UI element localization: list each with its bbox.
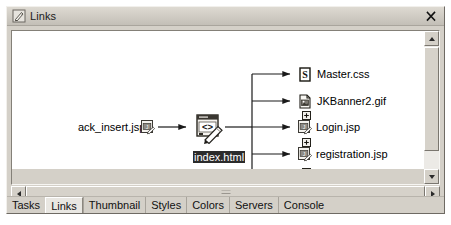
tab-label: Styles — [151, 199, 181, 211]
title-bar: Links — [7, 7, 444, 26]
tab-links[interactable]: Links — [45, 197, 83, 213]
bottom-tab-strip: Tasks Links Thumbnail Styles Colors Serv… — [7, 196, 444, 213]
links-pencil-icon — [12, 9, 26, 23]
tab-colors[interactable]: Colors — [186, 197, 229, 213]
tab-servers[interactable]: Servers — [229, 197, 278, 213]
graph-node-label-target-0[interactable]: Master.css — [317, 68, 370, 80]
svg-text:J: J — [146, 124, 149, 130]
svg-text:J: J — [303, 151, 306, 157]
scroll-down-arrow-glyph — [429, 175, 435, 179]
svg-text:S: S — [302, 69, 308, 80]
tab-thumbnail[interactable]: Thumbnail — [83, 197, 145, 213]
vertical-scrollbar[interactable] — [424, 31, 439, 184]
scroll-up-arrow[interactable] — [424, 31, 439, 46]
links-graph-canvas[interactable]: ack_insert.jsp J — [12, 31, 424, 169]
scroll-down-arrow[interactable] — [424, 169, 439, 184]
svg-text:<>: <> — [202, 121, 214, 132]
link-graph: ack_insert.jsp J — [12, 31, 424, 169]
tab-tasks[interactable]: Tasks — [7, 197, 45, 213]
links-client-area: ack_insert.jsp J — [11, 30, 440, 185]
tab-label: Colors — [192, 199, 224, 211]
tab-label: Console — [284, 199, 324, 211]
close-icon[interactable] — [423, 9, 439, 24]
scroll-up-arrow-glyph — [429, 37, 435, 41]
tab-label: Links — [51, 200, 77, 212]
vertical-scrollbar-thumb[interactable] — [424, 47, 439, 151]
tab-label: Tasks — [12, 199, 40, 211]
links-panel-window: Links — [6, 6, 445, 214]
tab-styles[interactable]: Styles — [145, 197, 186, 213]
tab-label: Thumbnail — [89, 199, 140, 211]
window-title: Links — [30, 10, 56, 22]
svg-text:J: J — [303, 124, 306, 130]
graph-node-label-target-3[interactable]: registration.jsp — [316, 148, 388, 160]
graph-node-label-source[interactable]: ack_insert.jsp — [78, 121, 145, 133]
tab-label: Servers — [235, 199, 273, 211]
graph-node-label-target-1[interactable]: JKBanner2.gif — [317, 95, 386, 107]
graph-node-label-center[interactable]: index.html — [193, 151, 245, 163]
tab-console[interactable]: Console — [278, 197, 329, 213]
graph-node-label-target-2[interactable]: Login.jsp — [316, 121, 360, 133]
